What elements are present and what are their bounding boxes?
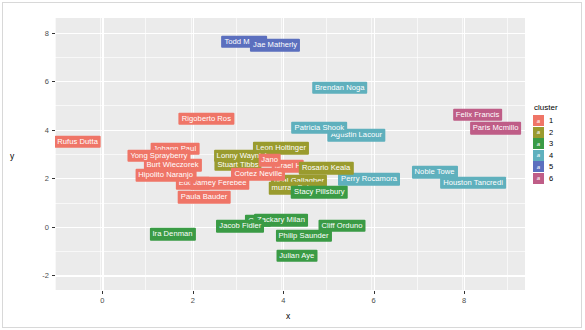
- y-axis-tick-mark: [52, 81, 55, 82]
- x-axis-tick-mark: [283, 291, 284, 294]
- legend: cluster a1a2a3a4a5a6: [533, 103, 583, 184]
- legend-item: a3: [533, 138, 583, 150]
- legend-color-swatch: a: [533, 138, 544, 149]
- point-label: Julian Aye: [276, 249, 317, 262]
- gridline-minor-horizontal: [55, 105, 525, 106]
- legend-item-label: 4: [549, 151, 553, 160]
- point-label: Paris Mcmillo: [470, 122, 522, 135]
- y-axis-tick-mark: [52, 227, 55, 228]
- y-axis-tick-label: 2: [45, 174, 49, 183]
- gridline-horizontal: [55, 275, 525, 276]
- legend-color-swatch: a: [533, 161, 544, 172]
- y-axis-tick-label: 8: [45, 28, 49, 37]
- x-axis-tick-label: 0: [100, 296, 104, 305]
- point-label: Rigoberto Ros: [179, 112, 234, 125]
- point-label: Stacy Pillsbury: [291, 186, 348, 199]
- point-label: Philip Saunder: [276, 229, 332, 242]
- legend-item-label: 2: [549, 128, 553, 137]
- point-label: Rosario Keala: [299, 162, 353, 175]
- y-axis-tick-mark: [52, 275, 55, 276]
- legend-item: a5: [533, 161, 583, 173]
- gridline-horizontal: [55, 81, 525, 82]
- legend-item: a4: [533, 150, 583, 162]
- y-axis-title: y: [10, 151, 14, 161]
- legend-item: a1: [533, 115, 583, 127]
- legend-item: a2: [533, 127, 583, 139]
- x-axis-tick-label: 4: [281, 296, 285, 305]
- y-axis-tick-label: -2: [42, 271, 49, 280]
- point-label: Yong Sprayberry: [127, 150, 190, 163]
- x-axis-tick-label: 2: [191, 296, 195, 305]
- point-label: Ira Denman: [149, 228, 195, 241]
- y-axis-tick-mark: [52, 178, 55, 179]
- legend-title: cluster: [534, 103, 583, 112]
- x-axis-tick-mark: [193, 291, 194, 294]
- chart-root: Todd MangiJae MatherlyBrendan NogaFelix …: [0, 0, 585, 330]
- x-axis-tick-mark: [102, 291, 103, 294]
- y-axis-tick-label: 6: [45, 77, 49, 86]
- gridline-horizontal: [55, 33, 525, 34]
- legend-color-swatch: a: [533, 115, 544, 126]
- point-label: Noble Towe: [412, 166, 458, 179]
- point-label: Perry Rocamora: [338, 173, 400, 186]
- x-axis-tick-label: 6: [372, 296, 376, 305]
- x-axis-title: x: [286, 311, 290, 321]
- gridline-minor-horizontal: [55, 203, 525, 204]
- x-axis-tick-mark: [464, 291, 465, 294]
- legend-color-swatch: a: [533, 173, 544, 184]
- legend-item: a6: [533, 173, 583, 185]
- legend-item-label: 1: [549, 116, 553, 125]
- point-label: Jae Matherly: [250, 39, 300, 52]
- gridline-minor-horizontal: [55, 57, 525, 58]
- legend-item-label: 5: [549, 162, 553, 171]
- point-label: Rufus Dutta: [55, 136, 101, 149]
- legend-item-label: 3: [549, 139, 553, 148]
- legend-color-swatch: a: [533, 150, 544, 161]
- legend-entries: a1a2a3a4a5a6: [533, 115, 583, 184]
- point-label: Patricia Shook: [292, 122, 348, 135]
- point-label: Cortez Neville: [231, 168, 285, 181]
- y-axis-tick-mark: [52, 33, 55, 34]
- legend-color-swatch: a: [533, 127, 544, 138]
- y-axis-tick-label: 4: [45, 125, 49, 134]
- gridline-horizontal: [55, 130, 525, 131]
- gridline-horizontal: [55, 227, 525, 228]
- x-axis-tick-mark: [374, 291, 375, 294]
- point-label: Paula Bauder: [178, 191, 231, 204]
- point-label: Jano: [258, 154, 281, 167]
- y-axis-tick-mark: [52, 130, 55, 131]
- y-axis-tick-label: 0: [45, 222, 49, 231]
- point-label: Felix Francis: [453, 108, 503, 121]
- plot-panel: Todd MangiJae MatherlyBrendan NogaFelix …: [55, 18, 525, 290]
- point-label: Jacob Fidler: [216, 220, 264, 233]
- legend-item-label: 6: [549, 174, 553, 183]
- point-label: Brendan Noga: [312, 82, 368, 95]
- x-axis-tick-label: 8: [462, 296, 466, 305]
- point-label: Hipolito Naranjo: [135, 169, 196, 182]
